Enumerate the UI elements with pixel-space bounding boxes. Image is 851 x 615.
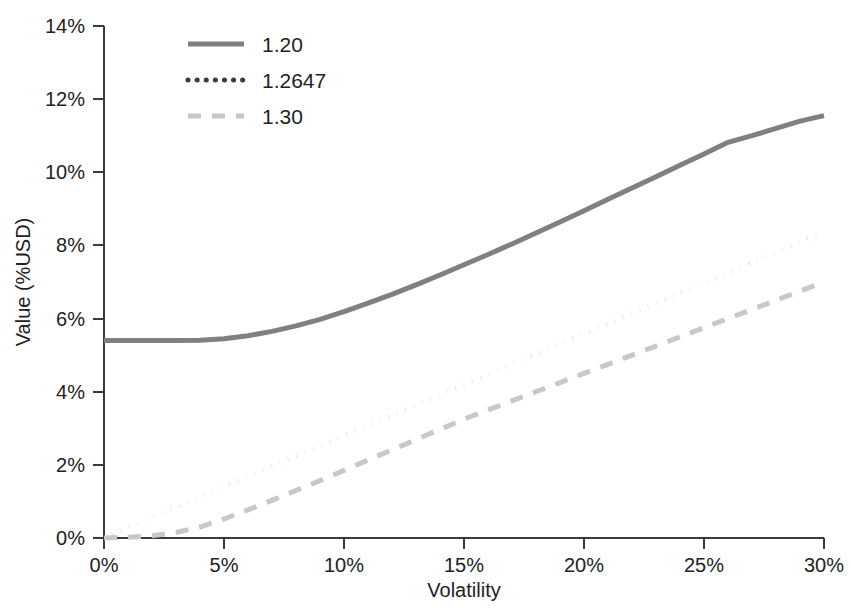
series-group [104,116,824,538]
y-axis-title: Value (%USD) [12,218,34,347]
line-chart: 0%2%4%6%8%10%12%14% 0%5%10%15%20%25%30% … [0,0,851,615]
x-axis-title: Volatility [427,579,500,601]
x-tick-label: 10% [324,554,364,576]
y-tick-label: 4% [56,381,85,403]
y-tick-label: 12% [45,88,85,110]
legend-label-1-2647: 1.2647 [262,69,326,92]
y-tick-label: 10% [45,161,85,183]
x-tick-label: 0% [90,554,119,576]
x-tick-label: 25% [684,554,724,576]
x-tick-label: 5% [210,554,239,576]
y-tick-label: 0% [56,527,85,549]
y-tick-labels: 0%2%4%6%8%10%12%14% [45,15,85,549]
y-tick-label: 2% [56,454,85,476]
x-tick-marks [104,538,824,549]
y-tick-label: 8% [56,234,85,256]
y-tick-label: 14% [45,15,85,37]
x-tick-label: 30% [804,554,844,576]
series-line-1-20 [104,116,824,341]
series-line-1-2647 [104,232,824,538]
series-line-1-30 [104,282,824,538]
y-tick-label: 6% [56,308,85,330]
x-tick-label: 20% [564,554,604,576]
legend-label-1-20: 1.20 [262,33,303,56]
chart-legend: 1.201.26471.30 [188,33,326,128]
legend-label-1-30: 1.30 [262,105,303,128]
x-tick-label: 15% [444,554,484,576]
x-tick-labels: 0%5%10%15%20%25%30% [90,554,845,576]
y-tick-marks [93,26,104,538]
chart-container: 0%2%4%6%8%10%12%14% 0%5%10%15%20%25%30% … [0,0,851,615]
